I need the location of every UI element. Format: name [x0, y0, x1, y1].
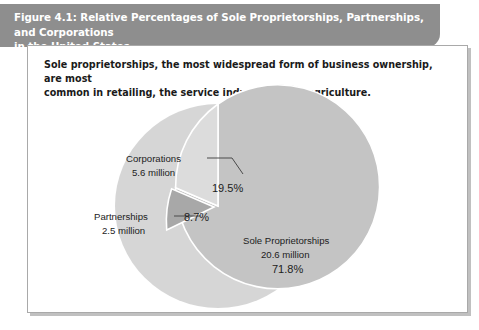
label-partnerships-name: Partnerships [94, 211, 148, 222]
label-corporations-count: 5.6 million [132, 167, 175, 178]
chart-panel: Sole proprietorships, the most widesprea… [27, 45, 468, 313]
label-sole-proprietorships-percent: 71.8% [272, 263, 303, 275]
pie-chart: Corporations 5.6 million 19.5% Partnersh… [28, 46, 469, 314]
figure-caption-line-1: Figure 4.1: Relative Percentages of Sole… [14, 10, 426, 39]
label-corporations-name: Corporations [126, 153, 181, 164]
label-sole-proprietorships-count: 20.6 million [261, 249, 310, 260]
label-corporations-percent: 19.5% [212, 182, 243, 194]
figure-root: Figure 4.1: Relative Percentages of Sole… [0, 0, 479, 330]
pie-chart-svg: Corporations 5.6 million 19.5% Partnersh… [28, 46, 469, 314]
label-partnerships-count: 2.5 million [102, 225, 145, 236]
label-sole-proprietorships-name: Sole Proprietorships [243, 235, 330, 246]
label-partnerships-percent: 8.7% [184, 211, 209, 223]
figure-caption-banner: Figure 4.1: Relative Percentages of Sole… [0, 4, 440, 47]
